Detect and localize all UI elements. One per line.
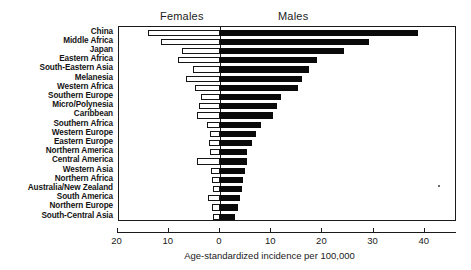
x-axis-tick-label: 10 (265, 235, 276, 246)
bar-row (119, 38, 455, 47)
x-axis-tick (168, 228, 169, 233)
category-label: Micro/Polynesia (52, 100, 113, 109)
bar-male (220, 85, 298, 91)
bar-male (220, 149, 247, 155)
bar-male (220, 66, 309, 72)
bar-male (220, 186, 242, 192)
bar-female (186, 76, 220, 82)
x-axis-tick (270, 228, 271, 233)
x-axis-tick (117, 228, 118, 233)
bar-male (220, 94, 281, 100)
bar-row (119, 130, 455, 139)
bar-row (119, 29, 455, 38)
x-axis-tick-label: 40 (419, 235, 430, 246)
bar-row (119, 93, 455, 102)
plot-area (118, 26, 456, 221)
bar-row (119, 75, 455, 84)
category-label: Australia/New Zealand (28, 183, 113, 192)
esophageal-incidence-pyramid-chart: Females Males ChinaMiddle AfricaJapanEas… (0, 0, 471, 270)
bar-male (220, 195, 240, 201)
bar-female (207, 122, 220, 128)
bar-male (220, 204, 238, 210)
x-axis-title: Age-standardized incidence per 100,000 (0, 250, 471, 261)
bar-row (119, 84, 455, 93)
chart-header-males: Males (278, 10, 308, 22)
category-label: Northern Africa (55, 174, 113, 183)
category-label: Middle Africa (63, 36, 113, 45)
bar-male (220, 103, 277, 109)
category-label-axis: ChinaMiddle AfricaJapanEastern AfricaSou… (0, 26, 115, 221)
category-label: Western Asia (63, 165, 113, 174)
x-axis-tick (424, 228, 425, 233)
x-axis-tick (321, 228, 322, 233)
category-label: South America (57, 192, 113, 201)
bar-female (211, 168, 220, 174)
bar-female (210, 149, 220, 155)
bar-row (119, 157, 455, 166)
bar-female (212, 177, 220, 183)
bar-male (220, 39, 369, 45)
bar-row (119, 185, 455, 194)
bar-female (197, 158, 220, 164)
chart-header-females: Females (160, 10, 204, 22)
bar-row (119, 47, 455, 56)
category-label: South-Eastern Asia (40, 63, 113, 72)
bar-male (220, 48, 344, 54)
bar-row (119, 213, 455, 222)
bar-male (220, 140, 252, 146)
bar-male (220, 214, 235, 220)
bar-female (212, 204, 220, 210)
category-label: Western Africa (57, 82, 113, 91)
x-axis-tick-label: 20 (111, 235, 122, 246)
bar-row (119, 102, 455, 111)
x-axis: 2010010203040 (118, 232, 456, 233)
x-axis-tick (373, 228, 374, 233)
bar-male (220, 122, 261, 128)
category-label: Caribbean (74, 109, 113, 118)
bar-female (209, 140, 220, 146)
bar-male (220, 57, 317, 63)
bar-male (220, 177, 243, 183)
bar-row (119, 176, 455, 185)
bar-female (197, 112, 220, 118)
x-axis-tick-label: 20 (316, 235, 327, 246)
category-label: China (91, 27, 113, 36)
bar-female (182, 48, 220, 54)
bar-row (119, 148, 455, 157)
bar-row (119, 111, 455, 120)
x-axis-tick-label: 10 (163, 235, 174, 246)
category-label: Eastern Africa (59, 54, 113, 63)
bar-female (208, 195, 220, 201)
category-label: Central America (52, 155, 113, 164)
bar-female (148, 30, 220, 36)
bar-male (220, 76, 302, 82)
bar-female (161, 39, 220, 45)
category-label: Melanesia (75, 73, 113, 82)
category-label: Northern America (46, 146, 113, 155)
category-label: South-Central Asia (41, 211, 113, 220)
bar-row (119, 203, 455, 212)
bar-male (220, 168, 245, 174)
bar-row (119, 65, 455, 74)
category-label: Western Europe (52, 128, 113, 137)
bar-male (220, 112, 273, 118)
bar-female (213, 186, 220, 192)
category-label: Southern Europe (48, 91, 113, 100)
category-label: Southern Africa (53, 119, 113, 128)
bar-female (210, 131, 220, 137)
bar-male (220, 158, 247, 164)
bar-male (220, 30, 418, 36)
bar-female (195, 85, 220, 91)
bar-female (178, 57, 220, 63)
bar-male (220, 131, 256, 137)
x-axis-tick (219, 228, 220, 233)
category-label: Japan (90, 45, 113, 54)
category-label: Eastern Europe (54, 137, 113, 146)
category-label: Northern Europe (49, 201, 113, 210)
bar-female (201, 94, 220, 100)
bar-row (119, 56, 455, 65)
bar-female (193, 66, 220, 72)
bar-female (213, 214, 220, 220)
bar-row (119, 121, 455, 130)
bar-row (119, 139, 455, 148)
